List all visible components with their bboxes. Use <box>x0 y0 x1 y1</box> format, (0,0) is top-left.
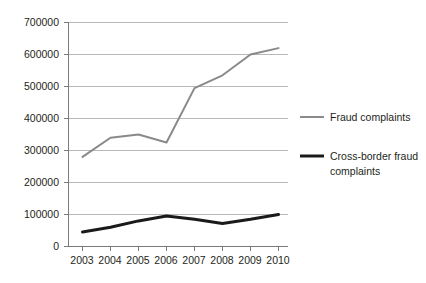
x-tick-label-2003: 2003 <box>70 254 94 266</box>
series-line-fraud-complaints <box>83 48 279 157</box>
y-tick-label-100000: 100000 <box>24 208 59 220</box>
line-chart-figure: 700000 600000 500000 400000 300000 20000… <box>0 0 426 283</box>
legend-label-fraud-complaints: Fraud complaints <box>330 111 411 123</box>
y-tick-label-300000: 300000 <box>24 144 59 156</box>
y-tick-label-600000: 600000 <box>24 48 59 60</box>
x-tick-label-2010: 2010 <box>266 254 290 266</box>
data-series-group <box>83 48 279 232</box>
y-tick-label-700000: 700000 <box>24 16 59 28</box>
y-axis <box>64 22 69 247</box>
y-axis-tick-labels: 700000 600000 500000 400000 300000 20000… <box>24 16 59 252</box>
x-tick-label-2008: 2008 <box>210 254 234 266</box>
x-tick-label-2006: 2006 <box>154 254 178 266</box>
x-axis <box>68 247 288 252</box>
legend: Fraud complaints Cross-border fraud comp… <box>300 111 418 177</box>
x-axis-tick-labels: 2003 2004 2005 2006 2007 2008 2009 2010 <box>70 254 290 266</box>
x-tick-label-2004: 2004 <box>98 254 122 266</box>
y-tick-label-500000: 500000 <box>24 80 59 92</box>
x-tick-label-2007: 2007 <box>182 254 206 266</box>
chart-canvas: 700000 600000 500000 400000 300000 20000… <box>0 0 426 283</box>
legend-label-cross-border-fraud-complaints-line1: Cross-border fraud <box>330 150 418 162</box>
y-tick-label-200000: 200000 <box>24 176 59 188</box>
x-tick-label-2009: 2009 <box>238 254 262 266</box>
series-line-cross-border-fraud-complaints <box>83 215 279 233</box>
y-tick-label-0: 0 <box>53 240 59 252</box>
legend-label-cross-border-fraud-complaints-line2: complaints <box>330 165 380 177</box>
y-tick-label-400000: 400000 <box>24 112 59 124</box>
x-tick-label-2005: 2005 <box>126 254 150 266</box>
